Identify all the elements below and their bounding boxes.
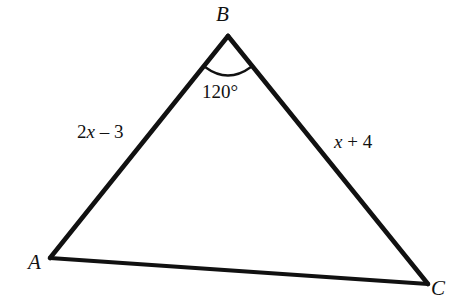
vertex-label-a: A: [28, 252, 41, 273]
triangle-drawing: [0, 0, 465, 307]
side-length-label-bc: x + 4: [334, 132, 372, 151]
geometry-figure: B A C 120° 2x – 3 x + 4: [0, 0, 465, 307]
vertex-label-c: C: [431, 278, 445, 299]
side-bc-constant: 4: [363, 131, 373, 152]
side-ab-constant: 3: [114, 121, 124, 142]
side-bc-operator-sign: +: [347, 131, 358, 152]
vertex-label-b: B: [216, 4, 229, 25]
side-ab-operator-sign: –: [100, 121, 110, 142]
side-ab-variable: x: [87, 121, 95, 142]
side-length-label-ab: 2x – 3: [77, 122, 123, 141]
angle-measure-label-b: 120°: [202, 82, 238, 101]
side-ab-coefficient: 2: [77, 121, 87, 142]
